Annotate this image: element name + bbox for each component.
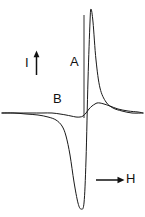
- spectrum-plot-svg: [0, 0, 145, 217]
- derivative-spectrum-figure: I A B H: [0, 0, 145, 217]
- curve-b-path: [2, 103, 143, 117]
- field-axis-label: H: [126, 172, 135, 185]
- up-arrow-icon: [34, 51, 40, 76]
- curve-a-label: A: [70, 55, 79, 68]
- intensity-axis-label: I: [25, 56, 29, 69]
- curve-b-label: B: [53, 92, 62, 105]
- right-arrow-icon: [96, 177, 125, 183]
